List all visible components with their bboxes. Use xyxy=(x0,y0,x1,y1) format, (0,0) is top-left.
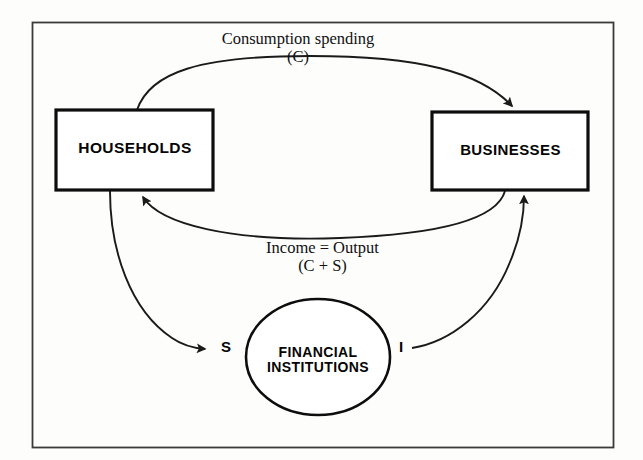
businesses-label: BUSINESSES xyxy=(433,142,588,158)
investment-letter-label: I xyxy=(394,338,408,355)
income-flow-label: Income = Output (C + S) xyxy=(215,239,430,276)
financial-institutions-label-line1: FINANCIAL xyxy=(251,345,385,360)
savings-letter-label: S xyxy=(216,338,236,355)
financial-institutions-label: FINANCIAL INSTITUTIONS xyxy=(251,345,385,375)
consumption-flow-label-line1: Consumption spending xyxy=(173,30,423,48)
households-label: HOUSEHOLDS xyxy=(57,140,213,157)
financial-institutions-label-line2: INSTITUTIONS xyxy=(251,360,385,375)
consumption-flow-label-line2: (C) xyxy=(173,48,423,66)
income-flow-label-line1: Income = Output xyxy=(215,239,430,257)
income-flow-label-line2: (C + S) xyxy=(215,257,430,275)
income-flow-arrow xyxy=(143,191,505,239)
consumption-flow-label: Consumption spending (C) xyxy=(173,30,423,67)
diagram-canvas xyxy=(0,0,643,460)
circular-flow-figure: HOUSEHOLDS BUSINESSES FINANCIAL INSTITUT… xyxy=(0,0,643,460)
savings-flow-arrow xyxy=(110,191,205,349)
